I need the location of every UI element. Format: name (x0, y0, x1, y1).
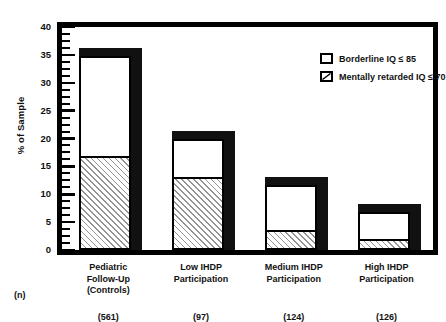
bar-shadow-top (79, 48, 142, 56)
y-axis-tick-label: 10 (23, 189, 51, 199)
y-axis-minor-tick (62, 144, 70, 146)
bar-segment-mentally-retarded (360, 239, 408, 248)
bar-2 (172, 131, 235, 251)
y-axis-major-tick (62, 54, 75, 57)
chart-container: % of Sample 0510152025303540 Borderline … (0, 0, 446, 322)
y-axis-minor-tick (62, 179, 70, 181)
legend-label-borderline: Borderline IQ ≤ 85 (339, 54, 416, 64)
legend-label-mentally-retarded: Mentally retarded IQ ≤ 70 (339, 72, 445, 82)
bar-shadow-top (358, 204, 421, 212)
y-axis-minor-tick (62, 158, 70, 160)
bar-shadow-right (410, 210, 421, 250)
y-axis-minor-tick (62, 242, 70, 244)
bar-body (358, 212, 410, 250)
chart-legend: Borderline IQ ≤ 85 Mentally retarded IQ … (320, 53, 445, 89)
x-axis-sample-size: (561) (62, 312, 155, 322)
y-axis-tick-label: 15 (23, 161, 51, 171)
bar-shadow-top (172, 131, 235, 139)
x-axis-label-2: Low IHDPParticipation(97) (155, 262, 248, 322)
y-axis-tick-label: 25 (23, 106, 51, 116)
bar-4 (358, 204, 421, 250)
y-axis-minor-tick (62, 117, 70, 119)
x-axis-sample-size: (126) (340, 312, 433, 322)
legend-item-borderline: Borderline IQ ≤ 85 (320, 53, 445, 64)
bar-segment-mentally-retarded (174, 177, 222, 248)
x-axis-label-line: Follow-Up (62, 274, 155, 286)
bar-segment-mentally-retarded (81, 156, 129, 248)
x-axis-label-line: Pediatric (62, 262, 155, 274)
x-axis-label-line: Low IHDP (155, 262, 248, 274)
x-axis-label-1: PediatricFollow-Up(Controls)(561) (62, 262, 155, 322)
y-axis-major-tick (62, 26, 75, 29)
y-axis-minor-tick (62, 131, 70, 133)
y-axis-minor-tick (62, 214, 70, 216)
x-axis-sample-size: (124) (248, 312, 341, 322)
y-axis-major-tick (62, 82, 75, 85)
x-axis-label-line: Participation (248, 274, 341, 286)
y-axis-minor-tick (62, 186, 70, 188)
x-axis-label-line: Participation (340, 274, 433, 286)
y-axis-major-tick (62, 221, 75, 224)
bar-body (265, 185, 317, 250)
y-axis-minor-tick (62, 172, 70, 174)
bar-shadow-top (265, 177, 328, 185)
y-axis-minor-tick (62, 75, 70, 77)
bar-1 (79, 48, 142, 250)
y-axis-minor-tick (62, 47, 70, 49)
y-axis-minor-tick (62, 124, 70, 126)
y-axis-major-tick (62, 109, 75, 112)
y-axis-minor-tick (62, 228, 70, 230)
bar-shadow-right (317, 183, 328, 250)
y-axis-major-tick (62, 165, 75, 168)
y-axis-minor-tick (62, 89, 70, 91)
bar-body (79, 56, 131, 250)
sample-size-header: (n) (14, 290, 26, 300)
plot-area: Borderline IQ ≤ 85 Mentally retarded IQ … (57, 22, 438, 255)
legend-item-mentally-retarded: Mentally retarded IQ ≤ 70 (320, 71, 445, 82)
y-axis-minor-tick (62, 61, 70, 63)
y-axis-major-tick (62, 193, 75, 196)
x-axis-label-line: Participation (155, 274, 248, 286)
y-axis-minor-tick (62, 68, 70, 70)
x-axis-labels: PediatricFollow-Up(Controls)(561)Low IHD… (57, 262, 438, 320)
x-axis-label-3: Medium IHDPParticipation(124) (248, 262, 341, 322)
legend-swatch-white-box (320, 53, 333, 64)
y-axis-minor-tick (62, 200, 70, 202)
x-axis-label-4: High IHDPParticipation(126) (340, 262, 433, 322)
y-axis-minor-tick (62, 33, 70, 35)
x-axis-label-line: (Controls) (62, 285, 155, 297)
y-axis-minor-tick (62, 151, 70, 153)
bar-shadow-right (224, 137, 235, 251)
bar-body (172, 139, 224, 251)
y-axis-major-tick (62, 249, 75, 252)
y-axis-minor-tick (62, 40, 70, 42)
y-axis-major-tick (62, 137, 75, 140)
y-axis-minor-tick (62, 207, 70, 209)
bar-shadow-right (131, 54, 142, 250)
legend-swatch-hatched-box (320, 71, 333, 82)
bar-3 (265, 177, 328, 250)
y-axis-tick-label: 35 (23, 50, 51, 60)
y-axis-tick-label: 20 (23, 134, 51, 144)
bar-segment-mentally-retarded (267, 230, 315, 248)
y-axis-tick-label: 5 (23, 217, 51, 227)
y-axis-minor-tick (62, 96, 70, 98)
y-axis-tick-label: 40 (23, 22, 51, 32)
y-axis-tick-label: 0 (23, 245, 51, 255)
x-axis-label-line: Medium IHDP (248, 262, 341, 274)
x-axis-sample-size: (97) (155, 312, 248, 322)
y-axis-tick-label: 30 (23, 78, 51, 88)
y-axis-minor-tick (62, 103, 70, 105)
x-axis-label-line: High IHDP (340, 262, 433, 274)
y-axis-minor-tick (62, 235, 70, 237)
